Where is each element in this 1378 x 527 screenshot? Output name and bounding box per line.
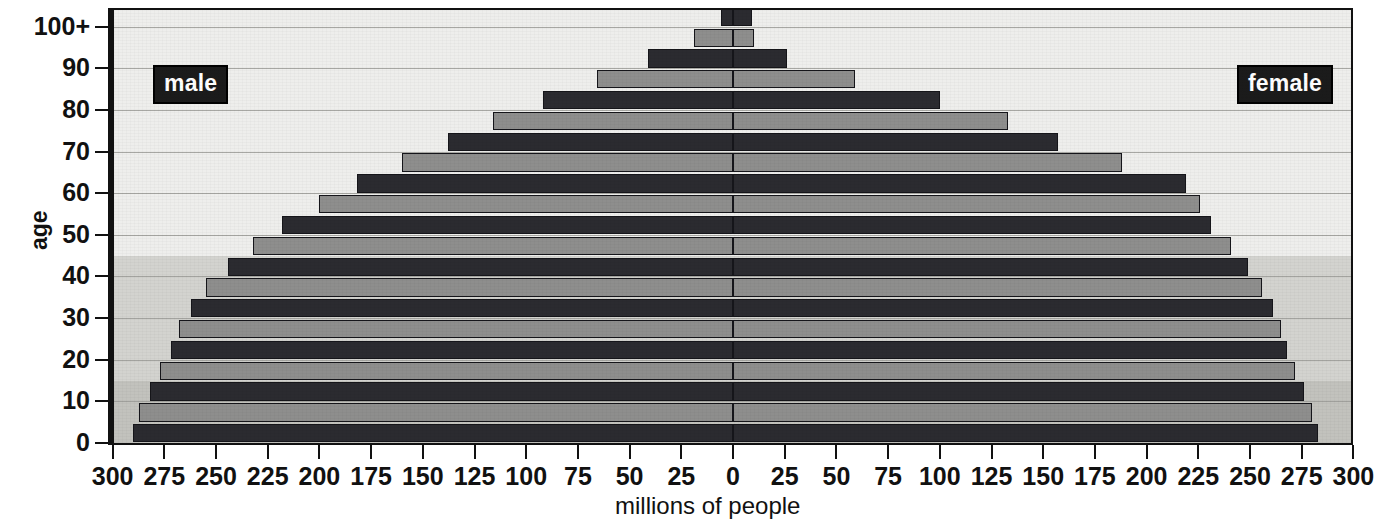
y-tick-label-70: 70 (62, 139, 90, 164)
bar-female-45-49 (733, 237, 1231, 255)
bar-male-0-4 (133, 424, 733, 442)
bar-female-25-29 (733, 320, 1281, 338)
bar-female-10-14 (733, 382, 1304, 400)
x-tick-24 (1352, 445, 1354, 459)
x-tick-1 (163, 445, 165, 459)
x-tick-9 (577, 445, 579, 459)
x-tick-16 (939, 445, 941, 459)
x-tick-22 (1249, 445, 1251, 459)
bar-female-80-84 (733, 91, 940, 109)
bar-female-90-94 (733, 49, 787, 67)
bar-male-5-9 (139, 403, 733, 421)
bar-female-70-74 (733, 133, 1058, 151)
legend-male: male (153, 65, 228, 104)
bar-male-95-99 (694, 29, 733, 47)
x-tick-0 (112, 445, 114, 459)
bar-male-15-19 (160, 362, 733, 380)
x-tick-18 (1042, 445, 1044, 459)
y-axis-title: age (26, 210, 53, 250)
bar-male-70-74 (448, 133, 733, 151)
x-tick-8 (525, 445, 527, 459)
y-tick-60 (95, 192, 108, 194)
y-tick-label-20: 20 (62, 347, 90, 372)
bar-female-85-89 (733, 70, 855, 88)
bar-female-50-54 (733, 216, 1211, 234)
y-tick-label-50: 50 (62, 222, 90, 247)
bar-male-75-79 (493, 112, 733, 130)
bar-male-10-14 (150, 382, 733, 400)
bar-female-5-9 (733, 403, 1312, 421)
bar-female-100+ (733, 8, 752, 26)
y-tick-label-10: 10 (62, 388, 90, 413)
y-tick-20 (95, 359, 108, 361)
bar-male-100+ (721, 8, 733, 26)
bar-female-0-4 (733, 424, 1318, 442)
x-tick-14 (835, 445, 837, 459)
gridline-age-90 (110, 68, 1351, 69)
y-tick-40 (95, 275, 108, 277)
x-tick-21 (1197, 445, 1199, 459)
x-tick-label-24: 300 (1323, 464, 1378, 489)
bar-male-35-39 (206, 278, 733, 296)
x-tick-23 (1301, 445, 1303, 459)
bar-male-60-64 (357, 174, 733, 192)
y-tick-label-0: 0 (76, 430, 90, 455)
bar-female-55-59 (733, 195, 1200, 213)
y-tick-label-60: 60 (62, 180, 90, 205)
y-tick-70 (95, 151, 108, 153)
x-tick-17 (991, 445, 993, 459)
bar-female-15-19 (733, 362, 1295, 380)
bar-male-45-49 (253, 237, 733, 255)
x-tick-15 (887, 445, 889, 459)
y-tick-80 (95, 109, 108, 111)
bar-female-35-39 (733, 278, 1262, 296)
x-tick-6 (422, 445, 424, 459)
x-axis-title: millions of people (615, 492, 800, 520)
x-tick-10 (629, 445, 631, 459)
y-tick-0 (95, 442, 108, 444)
bar-male-50-54 (282, 216, 733, 234)
x-tick-7 (474, 445, 476, 459)
gridline-age-30 (110, 318, 1351, 319)
x-tick-3 (267, 445, 269, 459)
y-tick-label-80: 80 (62, 97, 90, 122)
y-tick-10 (95, 400, 108, 402)
y-tick-label-90: 90 (62, 55, 90, 80)
x-tick-2 (215, 445, 217, 459)
y-tick-50 (95, 234, 108, 236)
gridline-age-10 (110, 401, 1351, 402)
bar-female-40-44 (733, 258, 1248, 276)
bar-male-30-34 (191, 299, 733, 317)
bar-female-60-64 (733, 174, 1186, 192)
center-axis-line (110, 10, 114, 443)
plot-area: male female (108, 8, 1353, 445)
y-tick-90 (95, 67, 108, 69)
x-tick-11 (680, 445, 682, 459)
bar-female-75-79 (733, 112, 1008, 130)
legend-female: female (1237, 65, 1333, 104)
y-tick-label-40: 40 (62, 263, 90, 288)
y-tick-label-100+: 100+ (34, 14, 90, 39)
x-tick-12 (732, 445, 734, 459)
x-tick-5 (370, 445, 372, 459)
bar-male-20-24 (171, 341, 733, 359)
bar-male-40-44 (228, 258, 733, 276)
bar-female-30-34 (733, 299, 1273, 317)
bar-female-20-24 (733, 341, 1287, 359)
bar-male-90-94 (648, 49, 733, 67)
x-tick-19 (1094, 445, 1096, 459)
y-tick-30 (95, 317, 108, 319)
y-tick-100+ (95, 26, 108, 28)
x-tick-4 (318, 445, 320, 459)
y-tick-label-30: 30 (62, 305, 90, 330)
bar-male-65-69 (402, 153, 733, 171)
x-tick-13 (784, 445, 786, 459)
gridline-age-60 (110, 193, 1351, 194)
x-tick-20 (1146, 445, 1148, 459)
gridline-age-0 (110, 443, 1351, 444)
bar-male-80-84 (543, 91, 733, 109)
bar-male-25-29 (179, 320, 733, 338)
bar-female-95-99 (733, 29, 754, 47)
gridline-age-40 (110, 276, 1351, 277)
